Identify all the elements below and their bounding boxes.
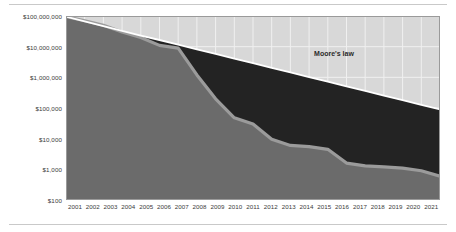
x-axis-tick-label: 2013 <box>280 203 298 215</box>
x-axis-tick-label: 2012 <box>262 203 280 215</box>
x-axis-tick-label: 2004 <box>119 203 137 215</box>
y-axis-tick-label: $10,000,000 <box>0 43 62 50</box>
x-axis-tick-label: 2001 <box>66 203 84 215</box>
moores-law-annotation: Moore's law <box>314 50 354 57</box>
x-axis-tick-label: 2011 <box>244 203 262 215</box>
chart-page: $100,000,000$10,000,000$1,000,000$100,00… <box>0 0 456 232</box>
x-axis-tick-label: 2014 <box>298 203 316 215</box>
y-axis-tick-label: $100,000 <box>0 105 62 112</box>
x-axis-tick-label: 2015 <box>315 203 333 215</box>
x-axis-tick-label: 2002 <box>84 203 102 215</box>
x-axis-tick-label: 2010 <box>226 203 244 215</box>
x-axis-tick-label: 2006 <box>155 203 173 215</box>
x-axis-tick-label: 2018 <box>369 203 387 215</box>
chart-canvas <box>66 16 440 200</box>
x-axis-tick-label: 2016 <box>333 203 351 215</box>
y-axis-tick-label: $100,000,000 <box>0 13 62 20</box>
top-divider <box>9 4 447 5</box>
plot-area <box>66 16 440 200</box>
y-axis-tick-label: $1,000,000 <box>0 74 62 81</box>
x-axis-tick-label: 2021 <box>422 203 440 215</box>
x-axis-labels: 2001200220032004200520062007200820092010… <box>66 203 440 215</box>
x-axis-tick-label: 2008 <box>191 203 209 215</box>
y-axis-tick-label: $1,000 <box>0 166 62 173</box>
y-axis-tick-label: $100 <box>0 197 62 204</box>
x-axis-tick-label: 2005 <box>137 203 155 215</box>
x-axis-tick-label: 2020 <box>404 203 422 215</box>
y-axis-tick-label: $10,000 <box>0 135 62 142</box>
x-axis-tick-label: 2017 <box>351 203 369 215</box>
bottom-divider <box>9 224 447 225</box>
x-axis-tick-label: 2007 <box>173 203 191 215</box>
x-axis-tick-label: 2003 <box>102 203 120 215</box>
x-axis-tick-label: 2019 <box>387 203 405 215</box>
x-axis-tick-label: 2009 <box>209 203 227 215</box>
